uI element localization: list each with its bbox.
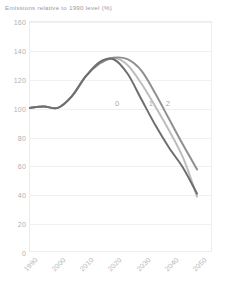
- x-axis-tick-label: 2050: [191, 256, 208, 273]
- y-axis-tick-label: 0: [22, 250, 26, 257]
- series-label-0: 0: [115, 98, 119, 107]
- y-axis-tick-label: 20: [18, 221, 26, 228]
- x-axis-tick-label: 2040: [163, 256, 180, 273]
- y-axis-tick-label: 40: [18, 192, 26, 199]
- plot-area: 020406080100120140160 199020002010202020…: [29, 21, 212, 252]
- y-axis-tick-label: 60: [18, 163, 26, 170]
- x-axis-tick-label: 2030: [135, 256, 152, 273]
- y-axis-tick-label: 80: [18, 134, 26, 141]
- series-line-1: [30, 58, 197, 197]
- y-axis-tick-label: 160: [14, 19, 26, 26]
- x-axis-tick-label: 2020: [107, 256, 124, 273]
- series-lines: [30, 22, 211, 251]
- series-label-1: 1: [149, 98, 153, 107]
- x-axis-tick-label: 2010: [79, 256, 96, 273]
- series-label-2: 2: [166, 98, 170, 107]
- x-axis-tick-label: 1990: [22, 256, 39, 273]
- x-axis-tick-label: 2000: [51, 256, 68, 273]
- y-axis-tick-label: 140: [14, 47, 26, 54]
- y-axis-tick-label: 120: [14, 76, 26, 83]
- y-axis-tick-label: 100: [14, 105, 26, 112]
- emissions-line-chart: Emissions relative to 1990 level (%) 020…: [0, 0, 232, 292]
- chart-title: Emissions relative to 1990 level (%): [5, 4, 112, 11]
